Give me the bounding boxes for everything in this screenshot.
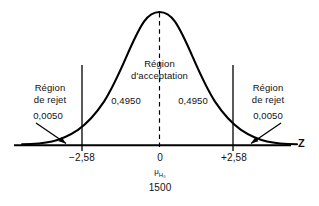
acceptance-probability-right-value: 0,4950 [178,95,208,106]
normal-distribution-figure: Région de rejet 0,0050 Région d'acceptat… [0,0,319,206]
left-rejection-probability: 0,0050 [18,110,78,122]
axis-tick-label-zero: 0 [136,152,184,164]
z-axis-label-text: Z [298,137,305,149]
left-rejection-arrow [36,123,66,144]
left-rejection-line1: Région [22,82,78,94]
axis-tick-label-negative: −2,58 [58,152,106,164]
mu-center-value: 1500 [136,182,184,194]
left-rejection-region-label: Région de rejet [22,82,78,105]
z-axis-label: Z [298,138,305,150]
axis-tick-label-positive: +2,58 [210,152,258,164]
left-rejection-probability-value: 0,0050 [33,110,63,121]
right-rejection-region-label: Région de rejet [240,82,296,105]
right-rejection-probability-value: 0,0050 [253,110,283,121]
mu-center-value-text: 1500 [149,182,172,193]
mu-null-hypothesis-label: μH₀ [136,166,184,181]
acceptance-line1: Région [110,58,209,70]
acceptance-probability-left-value: 0,4950 [111,95,141,106]
axis-tick-zero-value: 0 [157,152,163,163]
axis-tick-negative-value: −2,58 [69,152,95,163]
acceptance-line2: d'acceptation [110,70,209,82]
acceptance-region-label: Région d'acceptation [110,58,209,81]
acceptance-probability-right: 0,4950 [167,95,219,107]
right-rejection-line2: de rejet [240,94,296,106]
right-rejection-line1: Région [240,82,296,94]
right-rejection-probability: 0,0050 [238,110,298,122]
axis-tick-positive-value: +2,58 [221,152,247,163]
acceptance-probability-left: 0,4950 [100,95,152,107]
mu-subscript: H₀ [159,172,166,178]
left-rejection-line2: de rejet [22,94,78,106]
